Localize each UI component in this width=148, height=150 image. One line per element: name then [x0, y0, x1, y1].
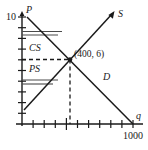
y-axis-tick-label-10: 10 — [6, 11, 16, 22]
y-axis-label: P — [25, 4, 32, 15]
equilibrium-point-marker — [68, 57, 73, 62]
demand-curve-label: D — [102, 71, 111, 82]
y-axis-arrow-icon — [20, 11, 25, 16]
supply-demand-chart: 10 P q 1000 S D CS PS (400, 6) — [0, 0, 148, 150]
demand-curve — [27, 17, 133, 124]
producer-surplus-hatch — [22, 80, 58, 84]
x-axis-label: q — [136, 110, 141, 121]
x-axis-tick-label-1000: 1000 — [123, 130, 143, 141]
supply-curve-label: S — [118, 8, 123, 19]
supply-curve — [24, 14, 112, 110]
equilibrium-point-label: (400, 6) — [74, 49, 104, 60]
producer-surplus-label: PS — [28, 63, 40, 74]
consumer-surplus-label: CS — [29, 42, 41, 53]
chart-canvas: 10 P q 1000 S D CS PS (400, 6) — [0, 0, 148, 150]
